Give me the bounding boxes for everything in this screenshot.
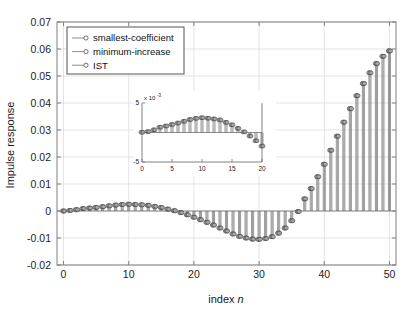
impulse-response-stem-chart: 01020304050 -0.02-0.0100.010.020.030.040… — [0, 0, 413, 314]
data-point-marker — [388, 49, 392, 53]
x-tick-label: 30 — [253, 268, 265, 280]
data-point-marker — [239, 234, 243, 238]
y-tick-label: 0.05 — [31, 70, 52, 82]
inset-data-point-marker — [195, 116, 199, 120]
inset-exponent-label: x 10 — [144, 95, 156, 101]
data-point-marker — [336, 134, 340, 138]
inset-x-tick-label: 10 — [198, 165, 206, 172]
inset-data-point-marker — [201, 116, 205, 120]
inset-x-tick-label: 15 — [228, 165, 236, 172]
figure-container: 01020304050 -0.02-0.0100.010.020.030.040… — [0, 0, 413, 314]
data-point-marker — [95, 205, 99, 209]
data-point-marker — [369, 71, 373, 75]
data-point-marker — [69, 208, 73, 212]
inset-data-point-marker — [159, 125, 163, 129]
x-tick-label: 40 — [318, 268, 330, 280]
inset-data-point-marker — [213, 117, 217, 121]
data-point-marker — [89, 206, 93, 210]
inset-data-point-marker — [189, 118, 193, 122]
data-point-marker — [362, 82, 366, 86]
inset-data-point-marker — [165, 124, 169, 128]
data-point-marker — [212, 223, 216, 227]
data-point-marker — [271, 235, 275, 239]
y-tick-label: 0.06 — [31, 43, 52, 55]
data-point-marker — [330, 148, 334, 152]
data-point-marker — [225, 229, 229, 233]
inset-data-point-marker — [231, 123, 235, 127]
data-point-marker — [108, 204, 112, 208]
data-point-marker — [102, 205, 106, 209]
data-point-marker — [141, 203, 145, 207]
data-point-marker — [128, 202, 132, 206]
inset-x-tick-label: 20 — [258, 165, 266, 172]
data-point-marker — [265, 236, 269, 240]
inset-data-point-marker — [243, 130, 247, 134]
inset-exponent-superscript: -3 — [157, 93, 161, 98]
legend-entry-label: IST — [93, 60, 108, 71]
inset-data-point-marker — [225, 120, 229, 124]
y-axis-label: Impulse response — [4, 102, 16, 189]
data-point-marker — [147, 203, 151, 207]
y-tick-label: 0.01 — [31, 178, 52, 190]
inset-axes: 05101520-55x 10-3 — [133, 91, 276, 176]
data-point-marker — [278, 231, 282, 235]
data-point-marker — [284, 226, 288, 230]
data-point-marker — [245, 236, 249, 240]
inset-data-point-marker — [261, 144, 265, 148]
legend-marker-icon — [84, 50, 88, 54]
legend-entry-label: smallest-coefficient — [93, 32, 174, 43]
inset-x-tick-label: 0 — [140, 165, 144, 172]
x-axis-label: index n — [208, 293, 243, 305]
inset-data-point-marker — [255, 139, 259, 143]
data-point-marker — [258, 237, 262, 241]
data-point-marker — [206, 220, 210, 224]
data-point-marker — [82, 207, 86, 211]
data-point-marker — [167, 207, 171, 211]
inset-data-point-marker — [153, 128, 157, 132]
inset-data-point-marker — [171, 123, 175, 127]
x-tick-label: 20 — [188, 268, 200, 280]
inset-data-point-marker — [183, 119, 187, 123]
data-point-marker — [63, 209, 67, 213]
inset-data-point-marker — [249, 134, 253, 138]
data-point-marker — [310, 187, 314, 191]
data-point-marker — [252, 237, 256, 241]
data-point-marker — [76, 208, 80, 212]
data-point-marker — [173, 209, 177, 213]
inset-data-point-marker — [141, 130, 145, 134]
y-tick-label: -0.01 — [27, 232, 51, 244]
data-point-marker — [186, 213, 190, 217]
data-point-marker — [115, 203, 119, 207]
data-point-marker — [382, 54, 386, 58]
inset-data-point-marker — [207, 116, 211, 120]
y-tick-label: 0 — [45, 205, 51, 217]
data-point-marker — [232, 232, 236, 236]
data-point-marker — [121, 202, 125, 206]
y-tick-label: -0.02 — [27, 259, 51, 271]
data-point-marker — [193, 215, 197, 219]
inset-data-point-marker — [219, 118, 223, 122]
inset-data-point-marker — [237, 126, 241, 130]
data-point-marker — [180, 211, 184, 215]
legend-marker-icon — [84, 36, 88, 40]
data-point-marker — [343, 120, 347, 124]
legend-marker-icon — [84, 63, 88, 67]
x-tick-label: 0 — [61, 268, 67, 280]
data-point-marker — [323, 162, 327, 166]
data-point-marker — [356, 94, 360, 98]
data-point-marker — [291, 219, 295, 223]
data-point-marker — [349, 107, 353, 111]
y-tick-label: 0.02 — [31, 151, 52, 163]
legend-entry-label: minimum-increase — [93, 46, 171, 57]
data-point-marker — [375, 62, 379, 66]
data-point-marker — [219, 226, 223, 230]
data-point-marker — [154, 204, 158, 208]
data-point-marker — [317, 175, 321, 179]
x-tick-label: 10 — [123, 268, 135, 280]
inset-y-tick-label: -5 — [133, 158, 139, 165]
data-point-marker — [304, 197, 308, 201]
data-point-marker — [199, 218, 203, 222]
inset-data-point-marker — [147, 130, 151, 134]
inset-data-point-marker — [177, 121, 181, 125]
data-point-marker — [134, 202, 138, 206]
